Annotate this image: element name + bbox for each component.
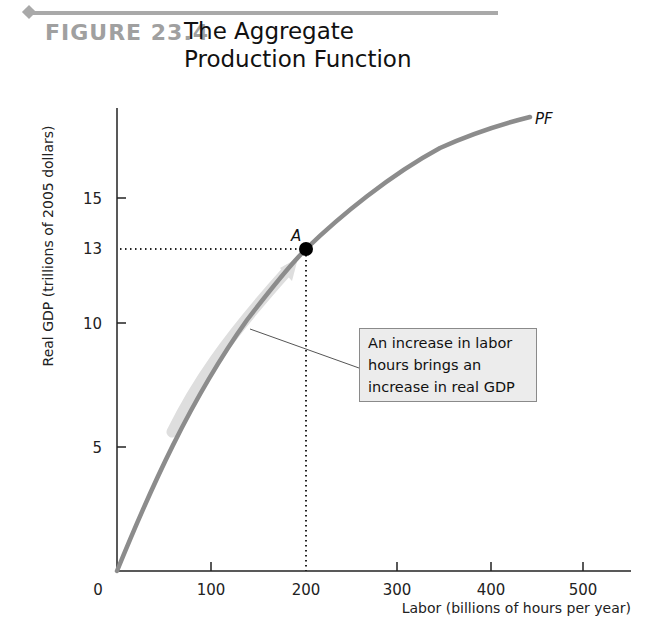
x-tick-300: 300	[383, 581, 412, 599]
production-function-chart: 5 10 13 15 0 100 200 300 400 500 Labor (…	[0, 0, 665, 620]
x-axis-title: Labor (billions of hours per year)	[402, 600, 631, 616]
y-tick-5: 5	[92, 439, 102, 457]
x-ticks	[211, 562, 583, 571]
annotation-line-2: hours brings an	[368, 354, 528, 376]
annotation-leader-line	[250, 329, 359, 368]
x-tick-200: 200	[292, 581, 321, 599]
x-tick-500: 500	[569, 581, 598, 599]
highlight-arrow-shaft	[172, 270, 288, 432]
annotation-line-3: increase in real GDP	[368, 376, 528, 398]
x-tick-400: 400	[477, 581, 506, 599]
y-axis-title: Real GDP (trillions of 2005 dollars)	[40, 126, 56, 367]
y-tick-13: 13	[83, 240, 102, 258]
annotation-line-1: An increase in labor	[368, 332, 528, 354]
curve-label: PF	[535, 110, 553, 128]
y-ticks	[117, 198, 126, 447]
x-tick-100: 100	[197, 581, 226, 599]
y-tick-10: 10	[83, 315, 102, 333]
x-tick-0: 0	[93, 581, 103, 599]
point-a-label: A	[290, 227, 301, 245]
annotation-box: An increase in labor hours brings an inc…	[359, 328, 537, 402]
y-tick-15: 15	[83, 190, 102, 208]
